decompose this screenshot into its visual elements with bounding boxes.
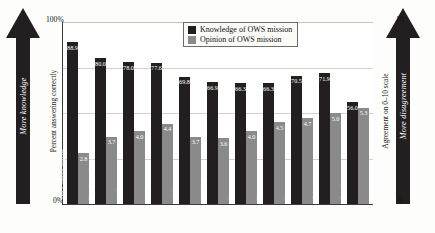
bar-value-label: 80.0 [95,60,106,67]
bar-group: 66.3Total sample4.5 [260,22,288,204]
legend-swatch-icon [188,26,196,34]
bar-value-label: 78.0 [123,64,134,71]
bar-value-label: 70.5 [291,77,302,84]
bar-value-label: 4.4 [164,125,172,132]
bar-group: 66.9MSNBC3.6 [204,22,232,204]
bar-value-label: 2.8 [80,155,88,162]
bar-value-label: 71.9 [319,75,330,82]
bar-value-label: 4.7 [304,120,312,127]
legend-swatch-icon [188,36,196,44]
bar-group: 69.8CNN3.7 [176,22,204,204]
bar-knowledge: 78.0NPR [123,62,134,204]
chart-container: More knowledge More disagreement Percent… [0,0,435,233]
bar-group: 80.0The Daily Show3.7 [92,22,120,204]
bar-group: 71.9Talk radio5.0 [316,22,344,204]
bar-value-label: 88.9 [67,44,78,51]
bar-value-label: 4.5 [276,124,284,131]
bar-value-label: 3.7 [192,138,200,145]
bar-value-label: 66.3 [235,85,246,92]
bar-opinion: 4.5 [274,122,285,204]
bar-knowledge: 66.3Total sample [263,83,274,204]
up-arrow-icon [6,8,40,204]
bar-opinion: 4.0 [246,131,257,204]
plot-area: 88.9The Colbert Report2.880.0The Daily S… [62,22,373,205]
bar-knowledge: 56.0Fox News [347,102,358,204]
right-axis-min-label: 0 [399,196,403,205]
bar-opinion: 3.7 [106,137,117,204]
bar-value-label: 56.0 [347,104,358,111]
bar-opinion: 3.6 [218,138,229,204]
bar-group: 78.0NPR4.0 [120,22,148,204]
bar-value-label: 5.0 [332,115,340,122]
chart-legend: Knowledge of OWS mission Opinion of OWS … [183,22,298,47]
legend-label: Opinion of OWS mission [200,35,282,44]
bar-group: 70.5Newspapers4.7 [288,22,316,204]
bar-value-label: 66.9 [207,84,218,91]
bar-opinion: 5.3 [358,108,369,204]
bar-knowledge: 77.6Online news [151,63,162,204]
more-knowledge-arrow: More knowledge [6,8,40,204]
bar-group: 88.9The Colbert Report2.8 [64,22,92,204]
bar-group: 56.0Fox News5.3 [344,22,372,204]
bar-opinion: 2.8 [78,153,89,204]
bar-opinion: 4.0 [134,131,145,204]
bar-group: 66.3Network news4.0 [232,22,260,204]
bar-opinion: 3.7 [190,137,201,204]
bar-value-label: 77.6 [151,64,162,71]
bar-value-label: 69.8 [179,78,190,85]
bar-knowledge: 69.8CNN [179,77,190,204]
legend-item-knowledge: Knowledge of OWS mission [188,25,292,34]
bar-knowledge: 66.3Network news [235,83,246,204]
legend-label: Knowledge of OWS mission [200,25,292,34]
bar-value-label: 4.0 [136,133,144,140]
bar-value-label: 66.3 [263,85,274,92]
bar-knowledge: 80.0The Daily Show [95,58,106,204]
bar-value-label: 4.0 [248,133,256,140]
bar-opinion: 5.0 [330,113,341,204]
legend-item-opinion: Opinion of OWS mission [188,35,292,44]
bar-knowledge: 71.9Talk radio [319,73,330,204]
bar-knowledge: 70.5Newspapers [291,76,302,204]
bar-value-label: 3.6 [220,140,228,147]
bar-knowledge: 66.9MSNBC [207,82,218,204]
right-axis-max-label: 10 [396,15,404,24]
bar-value-label: 3.7 [108,138,116,145]
bar-group: 77.6Online news4.4 [148,22,176,204]
left-axis-caption: Percent answering correctly [46,36,60,186]
right-axis-caption: Agreement on 0–10 scale [378,36,392,186]
bar-opinion: 4.7 [302,118,313,204]
bar-knowledge: 88.9The Colbert Report [67,42,78,204]
bar-opinion: 4.4 [162,124,173,204]
bar-value-label: 5.3 [360,109,368,116]
bar-groups: 88.9The Colbert Report2.880.0The Daily S… [63,22,373,204]
